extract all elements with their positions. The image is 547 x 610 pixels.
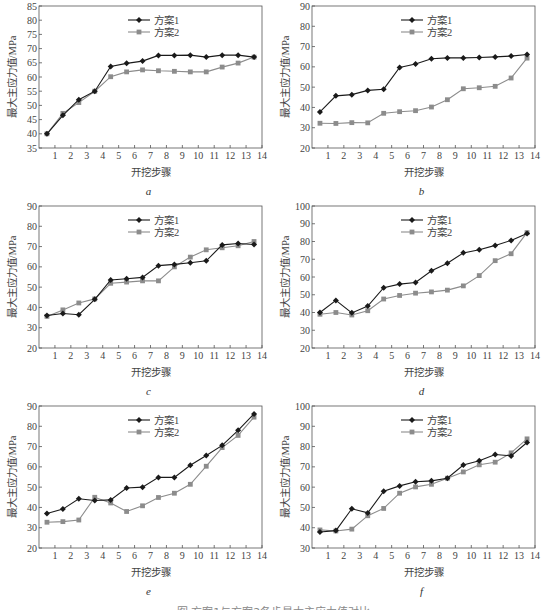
x-tick-label: 10 <box>193 150 203 161</box>
chart-svg-e: 20304050607080901234567891011121314开挖步骤最… <box>0 400 273 605</box>
x-tick-label: 6 <box>132 550 137 561</box>
x-tick-label: 4 <box>373 550 378 561</box>
panel-label: c <box>146 385 151 397</box>
y-tick-label: 50 <box>300 289 310 300</box>
panel-label: e <box>146 585 151 597</box>
data-point-square <box>140 68 145 73</box>
x-tick-label: 11 <box>209 350 219 361</box>
x-axis-label: 开挖步骤 <box>131 166 171 178</box>
x-tick-label: 5 <box>116 150 121 161</box>
y-tick-label: 30 <box>300 543 310 554</box>
x-tick-label: 9 <box>180 350 185 361</box>
legend-diamond-icon <box>136 17 142 23</box>
series-line-2 <box>47 417 254 522</box>
data-point-square <box>349 120 354 125</box>
x-tick-label: 3 <box>84 550 89 561</box>
x-tick-label: 14 <box>257 150 267 161</box>
x-tick-label: 11 <box>482 150 492 161</box>
x-tick-label: 1 <box>325 350 330 361</box>
x-tick-label: 14 <box>257 350 267 361</box>
y-tick-label: 70 <box>27 241 37 252</box>
x-tick-label: 13 <box>514 550 524 561</box>
data-point-square <box>365 120 370 125</box>
legend-entry-2: 方案2 <box>128 226 179 238</box>
y-tick-label: 55 <box>27 86 37 97</box>
data-point-square <box>445 288 450 293</box>
data-point-square <box>204 247 209 252</box>
x-axis-label: 开挖步骤 <box>131 366 171 378</box>
legend-label: 方案2 <box>154 426 179 438</box>
legend-label: 方案2 <box>154 226 179 238</box>
data-point-square <box>477 273 482 278</box>
x-tick-label: 5 <box>116 350 121 361</box>
data-point-square <box>461 283 466 288</box>
chart-panel-e: 20304050607080901234567891011121314开挖步骤最… <box>0 400 273 605</box>
legend-square-icon <box>410 430 415 435</box>
data-point-square <box>429 290 434 295</box>
legend-square-icon <box>410 230 415 235</box>
y-tick-label: 90 <box>300 1 310 12</box>
x-tick-label: 12 <box>498 150 508 161</box>
chart-svg-a: 3540455055606570758085123456789101112131… <box>0 0 273 200</box>
legend-square-icon <box>137 230 142 235</box>
chart-svg-b: 20304050607080901234567891011121314开挖步骤最… <box>273 0 546 200</box>
y-tick-label: 20 <box>27 543 37 554</box>
x-tick-label: 11 <box>209 150 219 161</box>
chart-panel-b: 20304050607080901234567891011121314开挖步骤最… <box>273 0 546 200</box>
chart-svg-d: 20304050607080901001234567891011121314开挖… <box>273 200 546 400</box>
data-point-diamond <box>60 506 66 512</box>
legend-entry-1: 方案1 <box>128 214 179 226</box>
legend-entry-2: 方案2 <box>401 426 452 438</box>
x-tick-label: 5 <box>389 550 394 561</box>
x-tick-label: 5 <box>389 350 394 361</box>
figure-grid: 3540455055606570758085123456789101112131… <box>0 0 547 610</box>
legend-entry-2: 方案2 <box>128 426 179 438</box>
x-tick-label: 2 <box>341 550 346 561</box>
y-tick-label: 30 <box>300 325 310 336</box>
y-tick-label: 60 <box>27 261 37 272</box>
legend-label: 方案2 <box>427 26 452 38</box>
y-tick-label: 90 <box>27 201 37 212</box>
panel-label: a <box>146 185 152 197</box>
y-tick-label: 100 <box>295 201 310 212</box>
legend-entry-2: 方案2 <box>128 26 179 38</box>
data-point-diamond <box>44 511 50 517</box>
y-tick-label: 20 <box>300 143 310 154</box>
x-tick-label: 2 <box>68 150 73 161</box>
y-axis-label: 最大主应力值/MPa <box>279 35 291 118</box>
y-tick-label: 50 <box>27 100 37 111</box>
x-tick-label: 5 <box>389 150 394 161</box>
data-point-square <box>493 84 498 89</box>
chart-panel-f: 304050607080901001234567891011121314开挖步骤… <box>273 400 546 605</box>
y-tick-label: 45 <box>27 114 37 125</box>
x-tick-label: 8 <box>437 550 442 561</box>
legend-label: 方案1 <box>427 14 452 26</box>
x-axis-label: 开挖步骤 <box>404 366 444 378</box>
data-point-square <box>413 485 418 490</box>
y-tick-label: 70 <box>27 441 37 452</box>
x-tick-label: 8 <box>164 150 169 161</box>
y-tick-label: 30 <box>300 122 310 133</box>
x-tick-label: 12 <box>498 550 508 561</box>
x-tick-label: 11 <box>482 350 492 361</box>
y-tick-label: 40 <box>27 128 37 139</box>
data-point-square <box>397 491 402 496</box>
x-tick-label: 2 <box>68 350 73 361</box>
data-point-square <box>445 97 450 102</box>
x-tick-label: 13 <box>241 150 251 161</box>
x-tick-label: 14 <box>530 350 540 361</box>
y-tick-label: 60 <box>27 461 37 472</box>
data-point-square <box>413 291 418 296</box>
x-axis-label: 开挖步骤 <box>404 566 444 578</box>
data-point-diamond <box>397 483 403 489</box>
y-tick-label: 35 <box>27 143 37 154</box>
x-tick-label: 10 <box>466 550 476 561</box>
data-point-square <box>76 518 81 523</box>
y-tick-label: 70 <box>300 41 310 52</box>
data-point-square <box>60 519 65 524</box>
data-point-square <box>236 433 241 438</box>
y-tick-label: 50 <box>300 82 310 93</box>
y-tick-label: 20 <box>300 343 310 354</box>
figure-caption: 图 方案1与方案2各步最大主应力值对比 <box>0 603 547 610</box>
data-point-diamond <box>235 52 241 58</box>
